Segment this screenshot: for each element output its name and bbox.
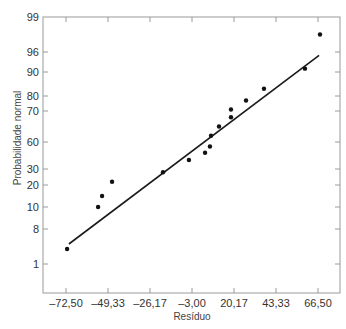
x-tick-label: 66,50 xyxy=(304,297,332,309)
plot-frame xyxy=(43,17,340,293)
data-point xyxy=(209,134,213,138)
y-tick-label: 1 xyxy=(33,258,39,270)
y-tick-label: 99 xyxy=(27,11,39,23)
data-point xyxy=(262,87,266,91)
data-point xyxy=(229,107,233,111)
data-point xyxy=(96,205,100,209)
data-point xyxy=(208,144,212,148)
data-point xyxy=(100,194,104,198)
x-tick-label: –26,17 xyxy=(133,297,167,309)
y-tick-label: 90 xyxy=(27,66,39,78)
y-axis-title: Probabilidade normal xyxy=(12,91,23,186)
data-point xyxy=(161,170,165,174)
data-point xyxy=(203,151,207,155)
y-tick-label: 30 xyxy=(27,163,39,175)
y-tick-label: 20 xyxy=(27,179,39,191)
y-tick-label: 8 xyxy=(33,223,39,235)
x-axis-title: Resíduo xyxy=(173,311,211,322)
x-tick-label: –72,50 xyxy=(49,297,83,309)
x-axis-ticks xyxy=(66,17,318,293)
data-point xyxy=(110,180,114,184)
y-axis-ticks xyxy=(43,52,340,264)
x-tick-label: –49,33 xyxy=(91,297,125,309)
y-tick-label: 80 xyxy=(27,90,39,102)
y-axis-tick-labels: 99969080706030201081 xyxy=(27,11,39,270)
y-tick-label: 70 xyxy=(27,105,39,117)
data-point xyxy=(244,98,248,102)
y-tick-label: 96 xyxy=(27,46,39,58)
data-point xyxy=(217,124,221,128)
y-tick-label: 10 xyxy=(27,201,39,213)
normal-probability-plot: –72,50–49,33–26,17–3,0020,1743,3366,50 9… xyxy=(0,0,346,329)
x-tick-label: –3,00 xyxy=(178,297,206,309)
data-point xyxy=(65,247,69,251)
x-axis-tick-labels: –72,50–49,33–26,17–3,0020,1743,3366,50 xyxy=(49,297,332,309)
x-tick-label: 20,17 xyxy=(220,297,248,309)
x-tick-label: 43,33 xyxy=(262,297,290,309)
data-point xyxy=(318,32,322,36)
y-tick-label: 60 xyxy=(27,136,39,148)
reference-line xyxy=(69,55,319,244)
data-point xyxy=(229,115,233,119)
data-point xyxy=(187,158,191,162)
data-point xyxy=(303,66,307,70)
